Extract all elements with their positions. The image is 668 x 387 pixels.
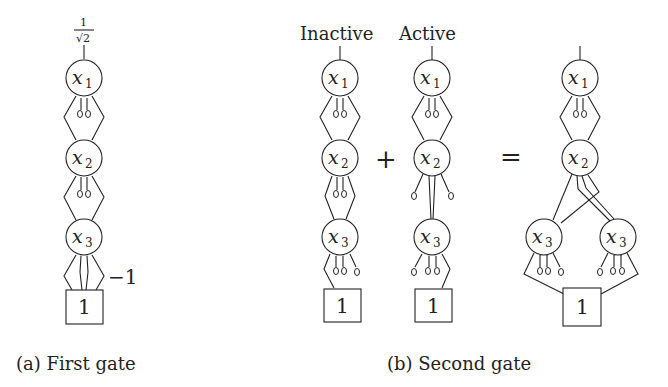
terminal-label: 1: [427, 294, 440, 318]
edge: [86, 256, 88, 290]
node-label: x: [72, 66, 83, 88]
equals-sign: =: [500, 142, 522, 172]
node-subscript: 2: [341, 157, 349, 171]
zero-terminal-icon: [86, 111, 91, 118]
zero-terminal-icon: [334, 111, 339, 118]
result-branch: x 1 x 2 x 3 x 3 1: [524, 46, 638, 326]
edge: [429, 176, 431, 219]
edge: [92, 255, 104, 290]
edge: [415, 174, 423, 192]
edge: [325, 176, 334, 219]
zero-terminal-icon: [342, 111, 347, 118]
edge: [320, 96, 332, 140]
zero-terminal-icon: [574, 111, 579, 118]
edge: [415, 254, 422, 267]
node-subscript: 1: [341, 77, 349, 91]
edge: [346, 176, 355, 219]
zero-terminal-icon: [435, 268, 440, 275]
zero-terminal-icon: [355, 269, 360, 276]
node-subscript: 1: [85, 77, 93, 91]
zero-terminal-icon: [449, 193, 454, 200]
node-label: x: [72, 146, 83, 168]
zero-terminal-icon: [426, 268, 431, 275]
terminal-label: 1: [78, 295, 91, 319]
zero-terminal-icon: [559, 269, 564, 276]
edge: [441, 174, 449, 192]
node-subscript: 2: [433, 157, 441, 171]
panel-a-first-gate: 1 √2 x 1 x 2 x 3 1 −1: [16, 16, 137, 374]
zero-terminal-icon: [412, 269, 417, 276]
node-subscript: 2: [85, 157, 93, 171]
edge: [324, 254, 334, 288]
plus-sign: +: [375, 144, 397, 174]
panel-b-second-gate: Inactive Active x 1: [300, 23, 638, 374]
zero-terminal-icon: [611, 268, 616, 275]
node-subscript: 1: [581, 77, 589, 91]
node-subscript: 3: [619, 236, 627, 250]
node-label: x: [420, 146, 431, 168]
zero-terminal-icon: [78, 111, 83, 118]
node-label: x: [568, 146, 579, 168]
edge-weight: −1: [108, 265, 137, 289]
zero-terminal-icon: [434, 111, 439, 118]
edge: [80, 256, 82, 290]
node-label: x: [328, 66, 339, 88]
zero-terminal-icon: [334, 191, 339, 198]
zero-terminal-icon: [342, 191, 347, 198]
zero-terminal-icon: [582, 111, 587, 118]
node-label: x: [532, 225, 543, 247]
edge: [601, 253, 608, 267]
caption-a: (a) First gate: [16, 353, 136, 374]
zero-terminal-icon: [78, 191, 83, 198]
edge: [350, 254, 356, 267]
zero-terminal-icon: [342, 268, 347, 275]
zero-terminal-icon: [334, 268, 339, 275]
node-label: x: [568, 66, 579, 88]
zero-terminal-icon: [412, 193, 417, 200]
zero-terminal-icon: [86, 191, 91, 198]
caption-b: (b) Second gate: [387, 353, 531, 374]
edge: [560, 96, 572, 140]
edge: [442, 254, 450, 288]
edge: [64, 176, 76, 220]
edge: [92, 176, 104, 220]
edge: [92, 96, 104, 140]
node-subscript: 1: [433, 77, 441, 91]
edge: [561, 175, 599, 223]
active-branch: x 1 x 2 x 3 1: [412, 46, 454, 322]
root-weight-numerator: 1: [80, 16, 87, 29]
edge: [524, 253, 564, 294]
zero-terminal-icon: [538, 268, 543, 275]
node-label: x: [420, 66, 431, 88]
edge: [412, 96, 424, 140]
edge: [440, 96, 452, 140]
node-label: x: [328, 146, 339, 168]
node-label: x: [420, 225, 431, 247]
inactive-branch: x 1 x 2 x 3 1: [320, 46, 361, 322]
zero-terminal-icon: [546, 268, 551, 275]
active-label: Active: [398, 23, 456, 44]
edge: [553, 174, 572, 220]
node-label: x: [72, 225, 83, 247]
edge: [588, 96, 600, 140]
node-subscript: 3: [341, 236, 349, 250]
edge: [553, 253, 560, 267]
zero-terminal-icon: [426, 111, 431, 118]
edge: [433, 176, 435, 219]
diagram-canvas: 1 √2 x 1 x 2 x 3 1 −1: [0, 0, 668, 387]
node-subscript: 3: [433, 236, 441, 250]
edge: [64, 96, 76, 140]
edge: [64, 255, 76, 290]
node-subscript: 2: [581, 157, 589, 171]
node-subscript: 3: [85, 236, 93, 250]
terminal-label: 1: [336, 294, 349, 318]
node-label: x: [328, 225, 339, 247]
zero-terminal-icon: [620, 268, 625, 275]
node-subscript: 3: [545, 236, 553, 250]
root-weight-denominator: √2: [76, 32, 90, 45]
edge: [348, 96, 360, 140]
node-label: x: [606, 225, 617, 247]
terminal-label: 1: [576, 295, 589, 319]
zero-terminal-icon: [598, 269, 603, 276]
inactive-label: Inactive: [300, 23, 373, 44]
